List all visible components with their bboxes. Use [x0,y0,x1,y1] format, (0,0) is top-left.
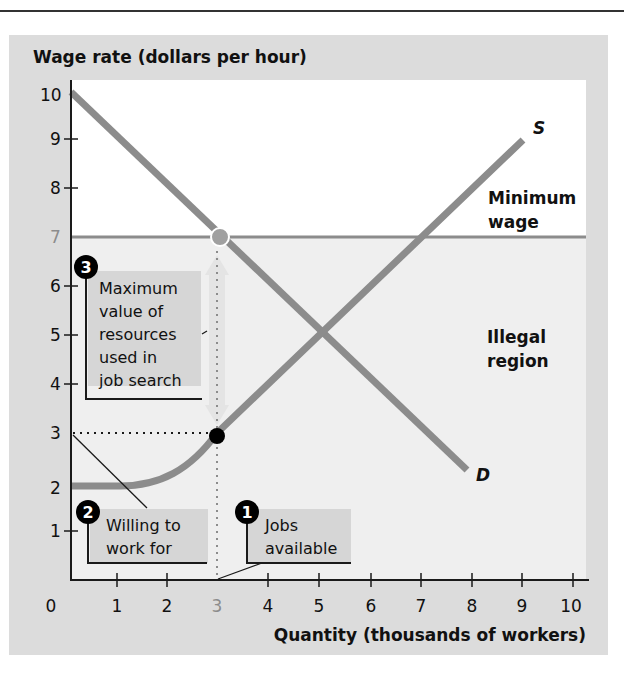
x-tick-0: 0 [46,596,57,616]
point-supply-at-3 [209,428,225,444]
x-tick-6: 6 [366,596,377,616]
svg-text:available: available [265,539,337,558]
note2-badge: 2 [76,500,100,524]
y-tick-9: 9 [50,129,61,149]
y-tick-8: 8 [50,178,61,198]
supply-label: S [533,118,545,138]
svg-text:used in: used in [99,348,157,367]
svg-text:Illegal: Illegal [487,327,546,347]
y-tick-5: 5 [50,325,61,345]
x-axis-title: Quantity (thousands of workers) [274,625,586,645]
note3-text: Maximum value of resources used in job s… [98,279,182,390]
x-tick-8: 8 [467,596,478,616]
x-tick-7: 7 [416,596,427,616]
svg-text:resources: resources [99,325,177,344]
y-tick-7: 7 [50,227,61,247]
chart-svg: Wage rate (dollars per hour) 10 9 8 7 6 … [0,0,624,679]
svg-text:Maximum: Maximum [99,279,178,298]
y-tick-labels: 10 9 8 7 6 5 4 3 2 1 [40,85,62,541]
svg-text:2: 2 [82,503,93,522]
point-min-wage-demand [211,228,229,246]
x-tick-5: 5 [314,596,325,616]
y-tick-6: 6 [50,276,61,296]
x-tick-3: 3 [212,596,223,616]
x-tick-4: 4 [263,596,274,616]
y-tick-4: 4 [50,374,61,394]
demand-label: D [476,465,490,485]
svg-text:Jobs: Jobs [264,516,298,535]
svg-text:job search: job search [98,371,182,390]
x-tick-labels: 0 1 2 3 4 5 6 7 8 9 10 [46,596,582,616]
svg-text:1: 1 [241,503,252,522]
y-tick-10: 10 [40,85,62,105]
y-tick-3: 3 [50,423,61,443]
note3-badge: 3 [74,255,98,279]
y-tick-1: 1 [50,521,61,541]
y-axis-title: Wage rate (dollars per hour) [33,47,307,67]
svg-text:region: region [487,351,549,371]
svg-text:work for: work for [106,539,172,558]
x-tick-2: 2 [162,596,173,616]
svg-text:Minimum: Minimum [488,188,576,208]
y-tick-2: 2 [50,478,61,498]
svg-text:3: 3 [80,258,91,277]
svg-text:wage: wage [488,212,539,232]
svg-text:value of: value of [99,302,164,321]
svg-text:Willing to: Willing to [106,516,181,535]
x-tick-10: 10 [560,596,582,616]
x-tick-1: 1 [112,596,123,616]
x-tick-9: 9 [517,596,528,616]
note1-badge: 1 [235,500,259,524]
